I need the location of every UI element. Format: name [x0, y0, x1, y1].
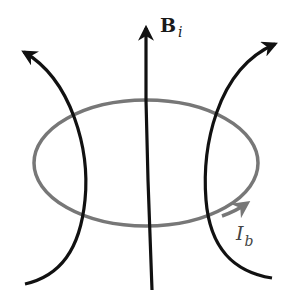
- field-label-subscript: i: [178, 24, 182, 40]
- field-line-center: [146, 28, 152, 290]
- diagram-drawing: [0, 0, 295, 305]
- magnetic-field-diagram: Bi Ib: [0, 0, 295, 305]
- current-label-main: I: [236, 222, 244, 244]
- field-label: Bi: [160, 14, 183, 36]
- field-label-main: B: [160, 14, 176, 36]
- current-label: Ib: [236, 222, 253, 244]
- current-label-subscript: b: [245, 233, 254, 249]
